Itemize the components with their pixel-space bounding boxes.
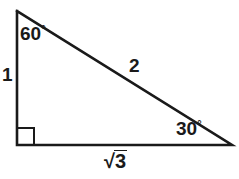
side-label-hypotenuse: 2 <box>129 56 140 75</box>
side-label-vertical: 1 <box>2 65 13 84</box>
right-angle-marker-icon <box>17 128 34 145</box>
degree-icon-right: ° <box>197 118 201 130</box>
angle-apex-value: 60 <box>20 23 41 44</box>
triangle-figure: 60° 30° 1 2 √3 <box>0 0 239 179</box>
radicand-value: 3 <box>114 150 127 172</box>
side-label-base: √3 <box>104 150 127 172</box>
angle-right-value: 30 <box>176 118 197 139</box>
square-root-expression: √3 <box>104 150 127 172</box>
angle-label-right: 30° <box>176 119 202 138</box>
angle-label-apex: 60° <box>20 24 46 43</box>
degree-icon-apex: ° <box>41 23 45 35</box>
